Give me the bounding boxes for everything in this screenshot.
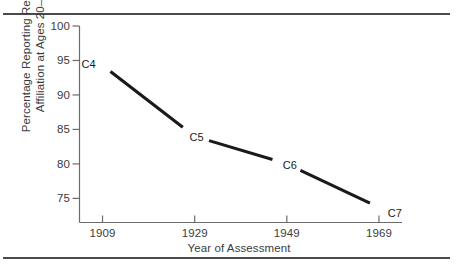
y-tick-label: 75 bbox=[38, 192, 70, 204]
y-axis-title-line-2: Affiliation at Ages 20–30 bbox=[33, 0, 47, 145]
data-point-label-c6: C6 bbox=[283, 159, 297, 171]
x-tick-label: 1969 bbox=[366, 227, 392, 239]
y-axis-title-line-1: Percentage Reporting Religious bbox=[20, 0, 34, 145]
data-point-label-c4: C4 bbox=[81, 58, 95, 70]
data-point-label-c5: C5 bbox=[190, 131, 204, 143]
x-tick-label: 1949 bbox=[274, 227, 300, 239]
data-line-segment bbox=[209, 141, 272, 160]
y-tick-label: 80 bbox=[38, 158, 70, 170]
data-line-segment bbox=[110, 71, 182, 127]
y-axis-title: Percentage Reporting Religious Affiliati… bbox=[20, 0, 47, 145]
y-tick-marks bbox=[73, 26, 80, 198]
x-axis-title: Year of Assessment bbox=[79, 242, 399, 254]
data-point-label-c7: C7 bbox=[388, 207, 402, 219]
x-tick-marks bbox=[103, 216, 379, 223]
data-line-segment bbox=[300, 170, 370, 203]
figure-panel: 1009590858075 1909192919491969 C4C5C6C7 … bbox=[0, 0, 461, 278]
x-tick-label: 1929 bbox=[182, 227, 208, 239]
axes-group bbox=[80, 26, 403, 223]
x-tick-label: 1909 bbox=[90, 227, 116, 239]
data-series-line bbox=[110, 71, 369, 203]
